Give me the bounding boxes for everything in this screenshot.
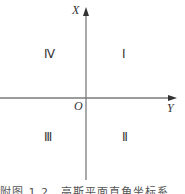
quadrant-2-label: Ⅱ (122, 131, 128, 143)
x-axis-arrow-icon (83, 7, 89, 16)
origin-label: O (74, 100, 83, 112)
coordinate-diagram: X Y O Ⅳ Ⅰ Ⅲ Ⅱ 附图 1.2 高斯平面直角坐标系 (0, 0, 185, 194)
x-axis-label: X (72, 4, 79, 16)
axes-svg (0, 0, 185, 194)
quadrant-3-label: Ⅲ (44, 131, 52, 143)
y-axis-label: Y (167, 102, 174, 114)
quadrant-4-label: Ⅳ (44, 48, 55, 60)
quadrant-1-label: Ⅰ (122, 48, 126, 60)
figure-caption: 附图 1.2 高斯平面直角坐标系 (0, 183, 185, 194)
